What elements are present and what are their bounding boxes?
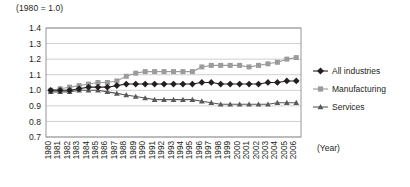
data-point-marker bbox=[133, 71, 138, 76]
data-point-marker bbox=[190, 69, 195, 74]
x-axis-tick-label: 2004 bbox=[270, 141, 279, 160]
x-axis-tick-label: 2005 bbox=[280, 141, 289, 160]
chart-container: (1980 = 1.0) 0.70.80.91.01.11.21.31.4198… bbox=[0, 0, 410, 187]
x-axis-tick-label: 1983 bbox=[72, 141, 81, 160]
data-point-marker bbox=[275, 60, 280, 65]
data-point-marker bbox=[256, 63, 261, 68]
data-point-marker bbox=[294, 55, 299, 60]
y-axis-tick-label: 0.9 bbox=[29, 101, 41, 111]
data-point-marker bbox=[284, 57, 289, 62]
data-point-marker bbox=[189, 81, 196, 88]
x-axis-tick-label: 1995 bbox=[185, 141, 194, 160]
y-axis-tick-label: 1.3 bbox=[29, 39, 41, 49]
x-axis-tick-label: 1996 bbox=[195, 141, 204, 160]
y-axis-tick-label: 1.1 bbox=[29, 70, 41, 80]
x-axis-title: (Year) bbox=[317, 143, 340, 153]
data-point-marker bbox=[227, 81, 234, 88]
legend-label: All industries bbox=[332, 66, 380, 76]
data-point-marker bbox=[180, 81, 187, 88]
x-axis-tick-label: 1989 bbox=[129, 141, 138, 160]
data-point-marker bbox=[217, 81, 224, 88]
data-point-marker bbox=[124, 74, 129, 79]
x-axis-tick-label: 1986 bbox=[100, 141, 109, 160]
x-axis-tick-label: 2003 bbox=[261, 141, 270, 160]
data-point-marker bbox=[143, 69, 148, 74]
data-point-marker bbox=[265, 61, 270, 66]
data-point-marker bbox=[180, 69, 185, 74]
x-axis-tick-label: 1993 bbox=[167, 141, 176, 160]
data-point-marker bbox=[265, 79, 272, 86]
data-point-marker bbox=[317, 67, 324, 74]
legend-label: Services bbox=[332, 102, 365, 112]
data-point-marker bbox=[237, 63, 242, 68]
x-axis-tick-label: 1998 bbox=[214, 141, 223, 160]
x-axis-tick-label: 1999 bbox=[223, 141, 232, 160]
x-axis-tick-label: 1980 bbox=[44, 141, 53, 160]
legend-label: Manufacturing bbox=[332, 84, 386, 94]
x-axis-tick-label: 1994 bbox=[176, 141, 185, 160]
data-point-marker bbox=[123, 81, 130, 88]
x-axis-tick-label: 2001 bbox=[242, 141, 251, 160]
data-point-marker bbox=[132, 81, 139, 88]
x-axis-tick-label: 1981 bbox=[53, 141, 62, 160]
data-point-marker bbox=[151, 81, 158, 88]
data-point-marker bbox=[228, 63, 233, 68]
data-point-marker bbox=[293, 78, 300, 85]
data-point-marker bbox=[198, 79, 205, 86]
data-point-marker bbox=[209, 63, 214, 68]
x-axis-tick-label: 2000 bbox=[233, 141, 242, 160]
x-axis-tick-label: 1988 bbox=[119, 141, 128, 160]
x-axis-tick-label: 1991 bbox=[148, 141, 157, 160]
x-axis-tick-label: 1982 bbox=[63, 141, 72, 160]
data-point-marker bbox=[283, 78, 290, 85]
chart-plot: 0.70.80.91.01.11.21.31.41980198119821983… bbox=[0, 0, 410, 187]
data-point-marker bbox=[247, 64, 252, 69]
x-axis-tick-label: 1990 bbox=[138, 141, 147, 160]
data-point-marker bbox=[142, 81, 149, 88]
data-point-marker bbox=[161, 81, 168, 88]
data-point-marker bbox=[199, 64, 204, 69]
data-point-marker bbox=[274, 79, 281, 86]
data-point-marker bbox=[246, 81, 253, 88]
y-axis-tick-label: 1.2 bbox=[29, 54, 41, 64]
data-point-marker bbox=[318, 86, 323, 91]
y-axis-tick-label: 1.4 bbox=[29, 23, 41, 33]
x-axis-tick-label: 1985 bbox=[91, 141, 100, 160]
data-point-marker bbox=[171, 69, 176, 74]
data-point-marker bbox=[208, 79, 215, 86]
data-point-marker bbox=[162, 69, 167, 74]
y-axis-tick-label: 0.7 bbox=[29, 132, 41, 142]
x-axis-tick-label: 2002 bbox=[252, 141, 261, 160]
data-point-marker bbox=[170, 81, 177, 88]
data-point-marker bbox=[152, 69, 157, 74]
x-axis-tick-label: 1987 bbox=[110, 141, 119, 160]
data-point-marker bbox=[255, 81, 262, 88]
x-axis-tick-label: 1984 bbox=[82, 141, 91, 160]
x-axis-tick-label: 1992 bbox=[157, 141, 166, 160]
y-axis-tick-label: 0.8 bbox=[29, 117, 41, 127]
data-point-marker bbox=[236, 81, 243, 88]
data-point-marker bbox=[218, 63, 223, 68]
y-axis-tick-label: 1.0 bbox=[29, 85, 41, 95]
x-axis-tick-label: 2006 bbox=[289, 141, 298, 160]
x-axis-tick-label: 1997 bbox=[204, 141, 213, 160]
